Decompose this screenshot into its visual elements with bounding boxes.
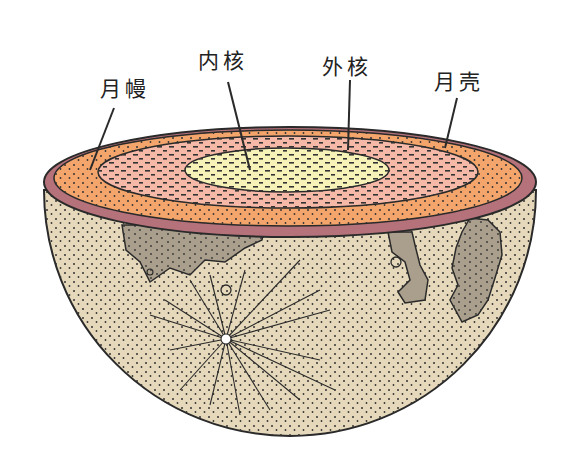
label-outer-core: 外核 [322,50,372,80]
moon-cutaway-illustration [0,0,578,468]
inner-core-layer [185,148,389,192]
label-mantle: 月幔 [100,72,150,102]
label-inner-core: 内核 [198,44,248,74]
label-crust: 月壳 [434,65,484,95]
moon-structure-diagram: 月幔 内核 外核 月壳 [0,0,578,468]
